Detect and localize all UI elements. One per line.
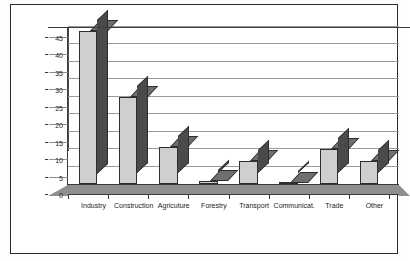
bar-front-face [119, 97, 137, 184]
y-tick-label: 25 [55, 104, 63, 111]
x-tick-label: Communicat. [274, 202, 315, 209]
floor-left-wedge [48, 185, 68, 196]
plot-inner: IndustryConstructionAgricutureForestryTr… [67, 27, 399, 195]
x-tick-mark [188, 195, 189, 199]
x-tick-mark [148, 195, 149, 199]
x-tick-label: Industry [81, 202, 106, 209]
x-tick-mark [309, 195, 310, 199]
x-tick-mark [349, 195, 350, 199]
x-tick-label: Forestry [201, 202, 227, 209]
plot-area: IndustryConstructionAgricutureForestryTr… [47, 17, 399, 239]
chart-floor-plinth [68, 184, 399, 195]
bar-trade [320, 127, 338, 184]
bar-front-face [159, 147, 177, 184]
bar-top-face [290, 172, 319, 183]
bar-forestry [199, 159, 217, 184]
y-tick-mark [45, 54, 48, 55]
bar-front-face [199, 181, 217, 184]
y-tick-label: 10 [55, 157, 63, 164]
x-tick-label: Agricuture [158, 202, 190, 209]
x-tick-label: Other [366, 202, 384, 209]
y-tick-label: 45 [55, 35, 63, 42]
floor-right-wedge [399, 185, 410, 196]
bar-side-face [378, 140, 389, 173]
gridline [68, 43, 399, 44]
bar-industry [79, 9, 97, 185]
bar-side-face [258, 140, 269, 173]
x-tick-mark [108, 195, 109, 199]
bar-side-face [97, 9, 108, 173]
y-tick-label: 0 [59, 192, 63, 199]
y-tick-mark [45, 37, 48, 38]
bar-front-face [79, 31, 97, 185]
y-tick-mark [45, 89, 48, 90]
gridline [68, 113, 399, 114]
x-tick-label: Transport [239, 202, 269, 209]
x-tick-mark [229, 195, 230, 199]
y-tick-label: 35 [55, 69, 63, 76]
bar-front-face [320, 149, 338, 184]
y-tick-label: 15 [55, 139, 63, 146]
gridline [68, 166, 399, 167]
y-tick-label: 5 [59, 174, 63, 181]
x-tick-mark [269, 195, 270, 199]
bar-front-face [239, 161, 257, 184]
bar-top-face [210, 170, 239, 181]
y-tick-mark [45, 142, 48, 143]
y-tick-label: 30 [55, 87, 63, 94]
bar-front-face [279, 182, 297, 184]
bar-transport [239, 139, 257, 184]
bar-other [360, 139, 378, 184]
gridline [68, 61, 399, 62]
y-tick-mark [45, 72, 48, 73]
gridline [68, 96, 399, 97]
bar-side-face [137, 76, 148, 173]
y-axis-line [68, 27, 69, 151]
x-axis-line [48, 27, 410, 28]
bar-construction [119, 75, 137, 184]
y-tick-mark [45, 107, 48, 108]
x-tick-label: Trade [325, 202, 343, 209]
chart-frame: IndustryConstructionAgricutureForestryTr… [10, 4, 398, 254]
y-tick-label: 40 [55, 52, 63, 59]
bar-agricuture [159, 125, 177, 184]
y-tick-mark [45, 194, 48, 195]
y-tick-mark [45, 177, 48, 178]
y-tick-label: 20 [55, 122, 63, 129]
y-tick-mark [45, 124, 48, 125]
x-tick-mark [389, 195, 390, 199]
x-tick-label: Construction [114, 202, 153, 209]
bar-front-face [360, 161, 378, 184]
gridline [68, 78, 399, 79]
y-tick-mark [45, 159, 48, 160]
gridline [68, 131, 399, 132]
bar-communicat [279, 161, 297, 185]
x-tick-mark [68, 195, 69, 199]
